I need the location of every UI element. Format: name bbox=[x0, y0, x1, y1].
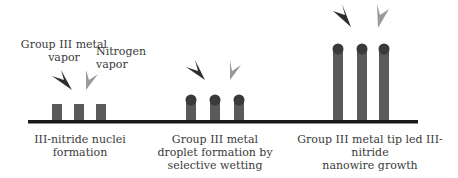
stage2-caption: Group III metal droplet formation by sel… bbox=[155, 133, 275, 172]
stage3-caption-line2: nanowire growth bbox=[285, 159, 455, 172]
stage3-nanowires bbox=[333, 44, 390, 121]
stage1-nuclei bbox=[52, 104, 106, 120]
metal-vapor-arrow-icon bbox=[186, 60, 205, 80]
stage2-droplet-pillars bbox=[186, 95, 245, 121]
stage1-caption: III-nitride nuclei formation bbox=[26, 133, 134, 159]
substrate-baseline bbox=[28, 120, 418, 124]
stage2-caption-line2: droplet formation by bbox=[155, 146, 275, 159]
stage1-caption-line2: formation bbox=[26, 146, 134, 159]
stage3-caption: Group III metal tip led III-nitride nano… bbox=[285, 133, 455, 172]
nitrogen-vapor-label: Nitrogen vapor bbox=[96, 45, 176, 71]
metal-vapor-arrow-icon bbox=[52, 70, 72, 90]
stage3-caption-line1: Group III metal tip led III-nitride bbox=[285, 133, 455, 159]
stage2-caption-line1: Group III metal bbox=[155, 133, 275, 146]
stage2-caption-line3: selective wetting bbox=[155, 159, 275, 172]
nitrogen-vapor-arrow-icon bbox=[377, 4, 389, 28]
stage1-caption-line1: III-nitride nuclei bbox=[26, 133, 134, 146]
metal-vapor-arrow-icon bbox=[333, 4, 351, 27]
nitrogen-vapor-arrow-icon bbox=[230, 60, 241, 80]
nitrogen-vapor-arrow-icon bbox=[86, 70, 98, 90]
